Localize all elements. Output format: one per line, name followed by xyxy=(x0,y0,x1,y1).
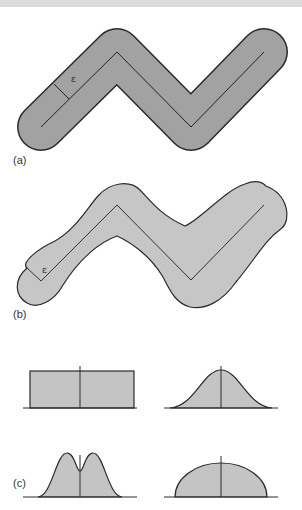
panel-label-a: (a) xyxy=(13,154,26,166)
panel-a: ε (a) xyxy=(13,52,264,166)
profile-semi-elliptical xyxy=(164,456,278,497)
buffer-fill-b xyxy=(17,182,287,308)
profile-rectangular xyxy=(23,366,137,408)
buffer-fill-a xyxy=(41,52,264,127)
profile-bimodal: (c) xyxy=(13,453,137,497)
profile-gaussian xyxy=(164,366,278,408)
panel-c: (c) xyxy=(13,366,278,497)
panel-label-b: (b) xyxy=(13,308,26,320)
figure-canvas: ε (a) ε (b) (c) xyxy=(0,0,302,510)
epsilon-label-b: ε xyxy=(42,265,47,275)
epsilon-label-a: ε xyxy=(71,74,76,84)
panel-b: ε (b) xyxy=(13,182,287,320)
panel-label-c: (c) xyxy=(13,477,26,489)
